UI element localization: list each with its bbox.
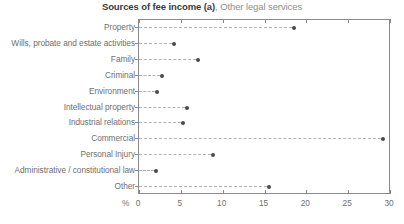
x-axis-tick-label-5: 5 [178, 198, 183, 208]
data-point-marker[interactable] [211, 153, 215, 157]
data-point-marker[interactable] [267, 185, 271, 189]
x-axis-unit-label: % [122, 198, 129, 208]
x-axis-tick-label-30: 30 [384, 198, 393, 208]
category-label: Environment [0, 86, 135, 96]
x-axis-tick-top-25 [348, 19, 349, 23]
category-label: Commercial [0, 133, 135, 143]
category-label: Family [0, 54, 135, 64]
category-label: Intellectual property [0, 102, 135, 112]
data-point-marker[interactable] [155, 90, 159, 94]
leader-line [139, 91, 155, 92]
data-point-marker[interactable] [154, 169, 158, 173]
data-point-marker[interactable] [172, 42, 176, 46]
leader-line [139, 27, 292, 28]
x-axis-tick-bottom-5 [181, 190, 182, 194]
x-axis-tick-label-0: 0 [136, 198, 141, 208]
data-point-marker[interactable] [185, 106, 189, 110]
x-axis-tick-bottom-10 [223, 190, 224, 194]
x-axis-tick-label-25: 25 [343, 198, 352, 208]
data-point-marker[interactable] [381, 137, 385, 141]
x-axis-tick-top-5 [181, 19, 182, 23]
category-label: Property [0, 22, 135, 32]
category-label: Wills, probate and estate activities [0, 38, 135, 48]
data-point-marker[interactable] [196, 58, 200, 62]
x-axis-tick-label-20: 20 [301, 198, 310, 208]
x-axis-tick-bottom-30 [390, 190, 391, 194]
data-point-marker[interactable] [160, 74, 164, 78]
x-axis-tick-label-15: 15 [259, 198, 268, 208]
leader-line [139, 59, 196, 60]
x-axis-tick-bottom-25 [348, 190, 349, 194]
leader-line [139, 154, 211, 155]
x-axis-tick-bottom-15 [265, 190, 266, 194]
x-axis-tick-top-0 [139, 19, 140, 23]
data-point-marker[interactable] [181, 121, 185, 125]
x-axis-tick-label-10: 10 [217, 198, 226, 208]
category-label: Criminal [0, 70, 135, 80]
category-label: Personal Injury [0, 149, 135, 159]
x-axis-tick-bottom-0 [139, 190, 140, 194]
x-axis-tick-top-15 [265, 19, 266, 23]
footer-rule [0, 216, 404, 217]
data-point-marker[interactable] [292, 26, 296, 30]
leader-line [139, 138, 381, 139]
leader-line [139, 186, 267, 187]
category-label: Other [0, 181, 135, 191]
chart-container: Sources of fee income (a), Other legal s… [0, 0, 404, 224]
x-axis-tick-top-20 [306, 19, 307, 23]
x-axis-tick-top-30 [390, 19, 391, 23]
chart-title: Sources of fee income (a), Other legal s… [0, 1, 404, 13]
leader-line [139, 75, 160, 76]
x-axis-tick-bottom-20 [306, 190, 307, 194]
leader-line [139, 170, 154, 171]
category-label: Industrial relations [0, 117, 135, 127]
plot-area [138, 19, 390, 194]
x-axis-tick-top-10 [223, 19, 224, 23]
leader-line [139, 122, 181, 123]
leader-line [139, 107, 185, 108]
chart-title-main: Sources of fee income (a) [102, 1, 215, 12]
leader-line [139, 43, 172, 44]
category-label: Administrative / constitutional law [0, 165, 135, 175]
chart-title-subtitle: , Other legal services [215, 1, 302, 12]
